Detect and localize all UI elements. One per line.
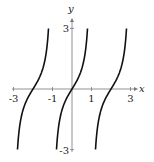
- x-axis-arrow-icon: [134, 87, 138, 91]
- y-axis-arrow-icon: [70, 18, 74, 22]
- y-axis-label: y: [67, 3, 74, 14]
- x-tick-label: -3: [9, 93, 19, 104]
- tangent-chart: -3-1133-3 x y: [0, 0, 154, 162]
- x-tick-label: -1: [48, 93, 58, 104]
- x-axis-label: x: [139, 83, 145, 94]
- y-tick-label: -3: [59, 145, 69, 156]
- x-tick-label: 1: [88, 93, 94, 104]
- x-tick-label: 3: [127, 93, 133, 104]
- y-tick-label: 3: [63, 23, 69, 34]
